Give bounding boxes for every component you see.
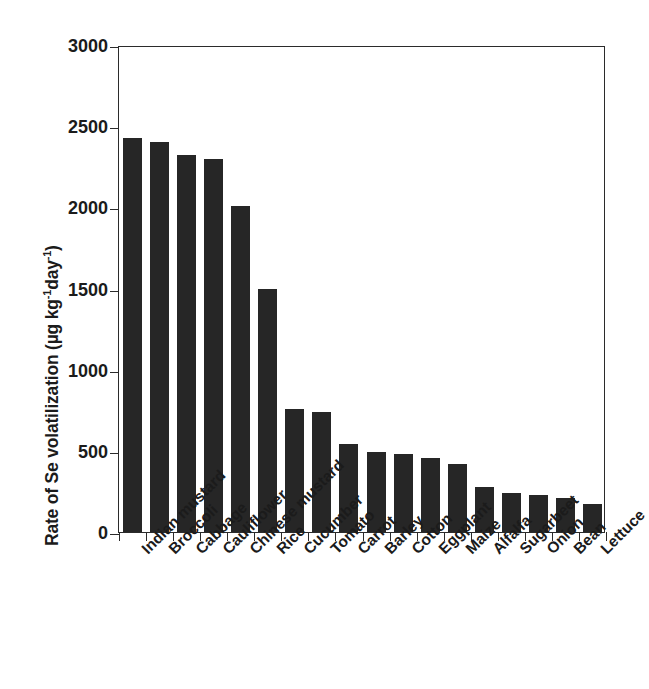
- y-axis-tick-label: 500: [46, 441, 108, 462]
- y-axis-tick-mark: [110, 128, 119, 129]
- y-axis-tick-mark: [110, 453, 119, 454]
- y-axis-tick-label: 3000: [46, 36, 108, 57]
- bar: [123, 138, 142, 532]
- y-axis-tick-mark: [110, 209, 119, 210]
- plot-area: [118, 46, 605, 533]
- bar: [150, 142, 169, 532]
- x-axis-tick-labels: Indian mustardBroccoliCabbageCauliflower…: [118, 533, 638, 689]
- y-axis-tick-label: 1500: [46, 279, 108, 300]
- y-axis-tick-mark: [110, 372, 119, 373]
- bar: [177, 155, 196, 532]
- y-axis-tick-mark: [110, 291, 119, 292]
- y-axis-title-container: Rate of Se volatilization (µg kg-1day-1): [0, 0, 46, 580]
- y-axis-tick-mark: [110, 47, 119, 48]
- y-axis-tick-label: 1000: [46, 360, 108, 381]
- y-axis-tick-label: 0: [46, 523, 108, 544]
- bar: [231, 206, 250, 532]
- y-axis-tick-label: 2000: [46, 198, 108, 219]
- y-axis-tick-labels: 050010001500200025003000: [46, 0, 108, 689]
- y-axis-tick-label: 2500: [46, 117, 108, 138]
